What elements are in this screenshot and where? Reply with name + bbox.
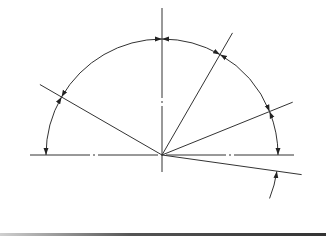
dimension-arc-0 [46,97,62,155]
dimension-arc-2 [162,39,220,55]
ray-line-150 [40,85,162,156]
ray-line-22 [162,102,293,155]
bottom-border [0,233,326,236]
angle-dimension-diagram [0,0,326,236]
dimension-arc-4 [270,112,278,155]
dimension-arc-1 [62,39,162,97]
ray-line-60 [162,33,233,155]
ray-line--8 [162,155,302,175]
dimension-arc-5 [270,171,277,198]
dimension-arc-3 [220,55,270,112]
